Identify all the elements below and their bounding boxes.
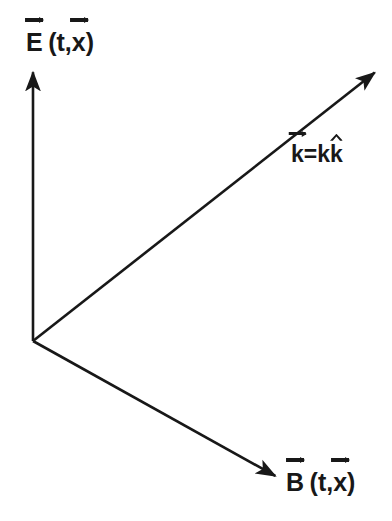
symbol-x-E: x [72,30,86,55]
vector-B-paren-open: ( [310,468,318,496]
vector-k-lhs-base: k [291,141,304,167]
symbol-B: B [286,470,304,495]
vector-k-equals: = [304,141,317,167]
vector-E-base: E [26,28,43,56]
vector-B-arg-x: x [333,468,347,496]
vector-k-arrow [33,73,375,341]
vector-B-paren-close: ) [347,468,355,496]
symbol-k-vector: k [291,143,304,166]
vector-k-label: k=kk [291,143,343,166]
symbol-k-hat: k [330,143,343,166]
vector-B-base: B [286,468,304,496]
symbol-x-B: x [333,470,347,495]
vector-E-paren-close: ) [86,28,94,56]
vector-E-label: E(t,x) [26,30,94,55]
vector-canvas [0,0,392,521]
symbol-E: E [26,30,43,55]
vector-B-arg-comma: , [326,468,333,496]
vector-B-label: B(t,x) [286,470,355,495]
vector-E-arg-t: t [57,28,65,56]
vector-k-scalar: k [317,141,330,167]
vector-E-arg-comma: , [65,28,72,56]
vector-diagram: E(t,x) k=kk B(t,x) [0,0,392,521]
vector-B-arrow [33,341,275,476]
vector-B-arg-t: t [318,468,326,496]
vector-k-rhs-base: k [330,141,343,167]
vector-E-paren-open: ( [48,28,56,56]
vector-E-arg-x: x [72,28,86,56]
